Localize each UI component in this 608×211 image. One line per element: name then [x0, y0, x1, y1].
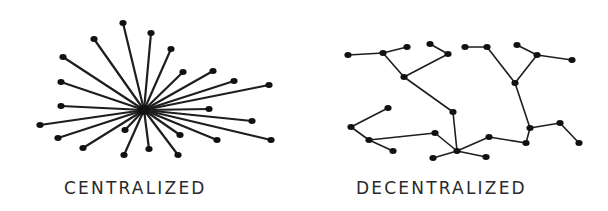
network-node	[403, 44, 410, 50]
peripheral-node	[57, 103, 64, 109]
network-node	[429, 155, 436, 161]
network-node	[533, 52, 540, 58]
network-edge	[383, 53, 404, 77]
peripheral-node	[174, 152, 181, 158]
network-edge	[435, 133, 457, 151]
network-edge	[433, 151, 457, 158]
spoke-edge	[63, 57, 144, 110]
network-edge	[560, 123, 579, 143]
network-edge	[369, 133, 435, 140]
network-edge	[530, 123, 560, 128]
network-node	[365, 137, 372, 143]
network-node	[431, 130, 438, 136]
peripheral-node	[248, 118, 255, 124]
network-edge	[537, 55, 572, 60]
peripheral-node	[79, 145, 86, 151]
network-edge	[457, 137, 489, 151]
network-comparison-figure: CENTRALIZED DECENTRALIZED	[0, 0, 608, 211]
network-node	[344, 52, 351, 58]
network-node	[482, 154, 489, 160]
network-node	[384, 105, 391, 111]
network-edge	[351, 108, 388, 127]
network-edge	[369, 140, 393, 151]
network-edge	[515, 55, 537, 83]
network-node	[379, 50, 386, 56]
network-node	[347, 124, 354, 130]
network-edge	[453, 112, 457, 151]
peripheral-node	[57, 79, 64, 85]
network-edge	[383, 47, 407, 53]
centralized-label: CENTRALIZED	[64, 178, 207, 198]
network-edge	[457, 151, 486, 157]
network-edge	[487, 47, 515, 83]
peripheral-node	[36, 122, 43, 128]
network-edge	[348, 53, 383, 55]
decentralized-network	[344, 41, 582, 161]
network-node	[400, 74, 407, 80]
network-node	[556, 120, 563, 126]
peripheral-node	[230, 78, 237, 84]
peripheral-node	[147, 30, 154, 36]
peripheral-node	[205, 106, 212, 112]
network-node	[453, 148, 460, 154]
network-node	[513, 42, 520, 48]
peripheral-node	[145, 146, 152, 152]
network-node	[575, 140, 582, 146]
network-node	[485, 134, 492, 140]
network-node	[426, 41, 433, 47]
peripheral-node	[267, 137, 274, 143]
network-node	[568, 57, 575, 63]
peripheral-node	[179, 69, 186, 75]
network-node	[511, 80, 518, 86]
network-node	[522, 140, 529, 146]
network-node	[444, 51, 451, 57]
decentralized-label: DECENTRALIZED	[356, 178, 527, 198]
centralized-network	[36, 20, 274, 158]
network-edge	[404, 54, 448, 77]
peripheral-node	[120, 152, 127, 158]
network-node	[461, 44, 468, 50]
network-node	[389, 148, 396, 154]
peripheral-node	[121, 127, 128, 133]
peripheral-node	[176, 132, 183, 138]
network-node	[483, 44, 490, 50]
network-edge	[404, 77, 453, 112]
peripheral-node	[59, 54, 66, 60]
spoke-edge	[144, 109, 209, 110]
peripheral-node	[209, 68, 216, 74]
network-edge	[515, 83, 530, 128]
peripheral-node	[213, 137, 220, 143]
hub-node	[138, 105, 150, 115]
peripheral-node	[54, 135, 61, 141]
peripheral-node	[167, 46, 174, 52]
peripheral-node	[119, 20, 126, 26]
spoke-edge	[40, 110, 144, 125]
network-node	[526, 125, 533, 131]
network-node	[449, 109, 456, 115]
peripheral-node	[90, 36, 97, 42]
network-edge	[489, 137, 526, 143]
peripheral-node	[265, 82, 272, 88]
